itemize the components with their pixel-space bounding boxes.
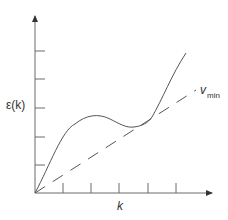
vmin-tangent-line	[35, 90, 196, 193]
dispersion-curve	[35, 53, 186, 193]
dispersion-diagram: ε(k) k v min	[0, 0, 228, 220]
y-axis-label: ε(k)	[6, 98, 25, 112]
vmin-label-main: v	[200, 83, 207, 97]
x-axis-label: k	[117, 199, 124, 213]
vmin-label-sub: min	[207, 91, 220, 100]
x-axis-ticks	[63, 183, 176, 193]
y-axis-ticks	[35, 51, 45, 165]
